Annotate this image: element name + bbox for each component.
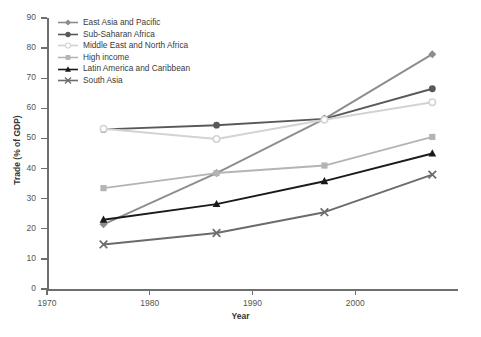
legend-item-label: Middle East and North Africa [79,40,188,52]
legend-item-label: South Asia [79,75,123,87]
series-line [100,134,435,191]
legend-item-2[interactable]: Middle East and North Africa [57,40,190,52]
legend-marker-icon [57,64,79,75]
legend-item-label: Latin America and Caribbean [79,63,190,75]
legend-marker-icon [57,29,79,40]
series-line [100,149,437,222]
legend-item-label: East Asia and Pacific [79,17,160,29]
legend-marker-icon [57,40,79,51]
chart-canvas: 0102030405060708090 1970198019902000 Tra… [0,0,481,337]
legend-marker-icon [57,52,79,63]
legend-item-1[interactable]: Sub-Saharan Africa [57,29,190,41]
series-line [100,99,435,142]
legend-marker-icon [57,75,79,86]
legend-item-0[interactable]: East Asia and Pacific [57,17,190,29]
legend-item-5[interactable]: South Asia [57,75,190,87]
legend-item-4[interactable]: Latin America and Caribbean [57,63,190,75]
legend-item-label: High income [79,52,129,64]
legend-item-label: Sub-Saharan Africa [79,29,155,41]
chart-legend: East Asia and PacificSub-Saharan AfricaM… [57,17,190,87]
legend-marker-icon [57,17,79,28]
legend-item-3[interactable]: High income [57,52,190,64]
